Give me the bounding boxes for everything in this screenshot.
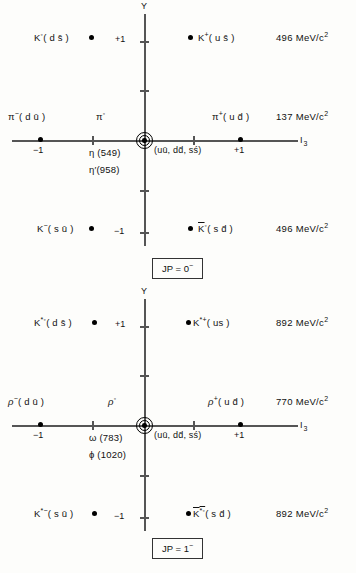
particle-dot-rhoplus [238, 422, 243, 427]
particle-dot-rhominus [38, 422, 43, 427]
i3-tick-label-minus1: −1 [33, 145, 43, 155]
particle-quarks: ( us ) [207, 317, 230, 328]
particle-symbol: π [8, 111, 15, 122]
particle-dot-kstar0 [92, 320, 97, 325]
mass-value: 892 MeV/c [276, 317, 324, 328]
figure-canvas: Y I3 +1 −1 −1 +1 (uū, dd̄, sś) K◦( d s̄ … [0, 0, 356, 573]
particle-label-rhoplus: ρ+( u d̄ ) [208, 395, 244, 407]
mass-label-kaon-top: 496 MeV/c2 [276, 31, 328, 43]
particle-dot-k0bar [188, 226, 193, 231]
i3-tick-label-plus1: +1 [234, 145, 244, 155]
particle-label-piplus: π+( u d̄ ) [212, 110, 249, 122]
particle-dot-kstarminus [92, 511, 97, 516]
y-axis-line [144, 299, 146, 531]
mass-value: 137 MeV/c [276, 111, 324, 122]
mass-label-rho: 770 MeV/c2 [276, 395, 328, 407]
y-tick-minus1 [140, 517, 149, 519]
particle-quarks: ( u d̄ ) [223, 111, 249, 122]
y-tick-label-plus1: +1 [115, 34, 125, 44]
particle-label-k0: K◦( d s̄ ) [34, 31, 69, 43]
particle-quarks: ( s ū ) [48, 223, 74, 234]
y-axis-label: Y [141, 1, 147, 11]
jp-superscript: − [189, 542, 193, 549]
mass-label-kstar-bottom: 892 MeV/c2 [276, 507, 328, 519]
particle-label-kplus: K+( u s̄ ) [198, 31, 235, 43]
y-tick-half-lower [140, 475, 149, 477]
particle-label-k0bar: K◦( s d̄ ) [198, 222, 233, 234]
mass-label-kstar-top: 892 MeV/c2 [276, 316, 328, 328]
particle-label-rhominus: ρ−( d ū ) [8, 395, 44, 407]
particle-symbol: π [212, 111, 219, 122]
i3-tick-minus-half [92, 136, 94, 145]
particle-label-kstar0: K*◦( d s̄ ) [34, 316, 72, 328]
particle-superscript: ◦ [103, 110, 106, 117]
mass-exponent: 2 [324, 507, 328, 514]
origin-quark-content: (uū, dd̄, sś) [154, 430, 201, 440]
mass-exponent: 2 [324, 222, 328, 229]
y-tick-half-upper [140, 375, 149, 377]
particle-quarks: ( s ū ) [48, 508, 74, 519]
y-axis-label: Y [141, 286, 147, 296]
particle-label-omega: ω (783) [89, 432, 123, 443]
nonet-pseudoscalar: Y I3 +1 −1 −1 +1 (uū, dd̄, sś) K◦( d s̄ … [0, 0, 356, 290]
jp-superscript: − [189, 262, 193, 269]
mass-label-kaon-bottom: 496 MeV/c2 [276, 222, 328, 234]
i3-axis-line [12, 140, 298, 142]
particle-label-rhozero: ρ◦ [108, 395, 116, 407]
nonet-vector: Y I3 +1 −1 −1 +1 (uū, dd̄, sś) K*◦( d s̄… [0, 285, 356, 573]
particle-dot-piminus [38, 137, 43, 142]
i3-tick-minus-half [92, 421, 94, 430]
mass-exponent: 2 [324, 395, 328, 402]
mass-label-pion: 137 MeV/c2 [276, 110, 328, 122]
mass-exponent: 2 [324, 31, 328, 38]
particle-label-kstarminus: K*−( s ū ) [34, 507, 73, 519]
particle-dot-kplus [188, 35, 193, 40]
jp-box-vector: JP = 1− [152, 538, 203, 559]
y-tick-label-minus1: −1 [114, 226, 124, 236]
origin-marker [136, 417, 153, 434]
jp-label: JP = 0 [162, 263, 189, 274]
particle-symbol: π [96, 111, 103, 122]
particle-label-pizero: π◦ [96, 110, 105, 122]
y-tick-plus1 [140, 326, 149, 328]
i3-axis-label-sub: 3 [303, 425, 308, 432]
particle-superscript: *+ [200, 316, 207, 323]
particle-quarks: ( u s̄ ) [209, 32, 235, 43]
i3-axis-label: I3 [300, 135, 307, 147]
jp-label: JP = 1 [162, 543, 189, 554]
particle-label-kminus: K−( s ū ) [37, 222, 74, 234]
particle-label-kstar0bar: K*◦( s d̄ ) [193, 507, 231, 519]
i3-axis-line [12, 425, 298, 427]
y-tick-minus1 [140, 232, 149, 234]
origin-marker [136, 132, 153, 149]
particle-superscript: ◦ [114, 395, 117, 402]
i3-tick-label-minus1: −1 [33, 430, 43, 440]
particle-quarks: ( s d̄ ) [207, 223, 233, 234]
i3-tick-plus-half [193, 136, 195, 145]
mass-value: 496 MeV/c [276, 32, 324, 43]
i3-tick-plus-half [193, 421, 195, 430]
mass-value: 892 MeV/c [276, 508, 324, 519]
origin-quark-content: (uū, dd̄, sś) [154, 145, 201, 155]
mass-exponent: 2 [324, 316, 328, 323]
particle-quarks: ( s d̄ ) [205, 508, 231, 519]
particle-quarks: ( u d̄ ) [218, 396, 244, 407]
y-axis-line [144, 14, 146, 246]
i3-tick-label-plus1: +1 [234, 430, 244, 440]
particle-quarks: ( d ū ) [18, 396, 44, 407]
particle-label-kstarplus: K*+( us ) [193, 316, 230, 328]
jp-box-pseudoscalar: JP = 0− [152, 258, 203, 279]
y-tick-half-lower [140, 190, 149, 192]
y-tick-half-upper [140, 90, 149, 92]
mass-value: 770 MeV/c [276, 396, 324, 407]
particle-dot-piplus [238, 137, 243, 142]
y-tick-plus1 [140, 41, 149, 43]
y-tick-label-minus1: −1 [114, 511, 124, 521]
particle-superscript: *− [41, 507, 48, 514]
mass-exponent: 2 [324, 110, 328, 117]
particle-dot-kstarplus [186, 320, 191, 325]
particle-quarks: ( d s̄ ) [46, 317, 72, 328]
particle-label-phi: ϕ (1020) [89, 449, 126, 460]
particle-label-piminus: π−( d ū ) [8, 110, 45, 122]
particle-quarks: ( d s̄ ) [43, 32, 69, 43]
